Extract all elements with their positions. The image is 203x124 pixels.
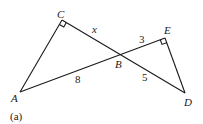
point-label-D: D xyxy=(184,97,192,108)
point-label-E: E xyxy=(164,25,171,36)
point-label-B: B xyxy=(115,59,122,70)
geometry-figure: C x E 3 B 8 5 A D (a) xyxy=(0,0,203,124)
segment-label-x: x xyxy=(92,24,97,35)
segment-label-5: 5 xyxy=(142,72,148,83)
figure-caption: (a) xyxy=(10,111,22,122)
point-label-A: A xyxy=(11,93,18,104)
segment-ED xyxy=(165,38,185,93)
point-label-C: C xyxy=(57,9,64,20)
segment-AC xyxy=(20,20,62,92)
segment-AE xyxy=(20,38,165,92)
segment-label-3: 3 xyxy=(139,34,145,45)
triangles-drawing xyxy=(0,0,203,124)
segment-label-8: 8 xyxy=(75,74,81,85)
